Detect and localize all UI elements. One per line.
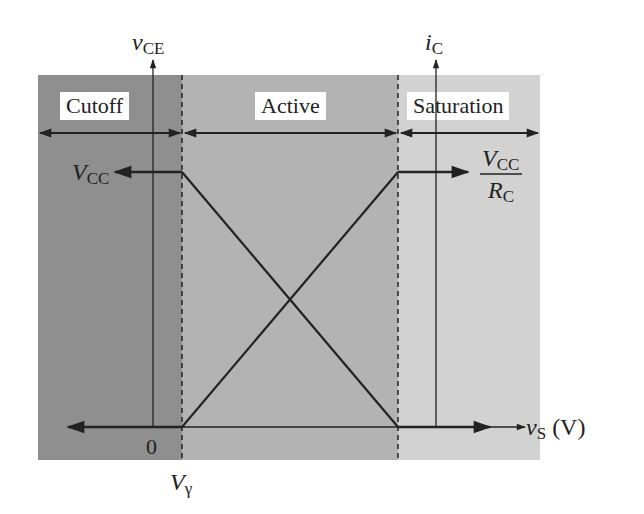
vcc-over-rc-denominator: RC	[488, 178, 514, 205]
vce-axis-label: vCE	[132, 30, 164, 57]
ic-axis-label: iC	[425, 30, 443, 57]
vcc-label: VCC	[72, 160, 109, 187]
origin-label: 0	[146, 436, 157, 458]
vs-axis-label: vS (V)	[526, 415, 585, 442]
vcc-over-rc-numerator: VCC	[482, 146, 519, 173]
v-gamma-label: Vγ	[170, 470, 192, 497]
